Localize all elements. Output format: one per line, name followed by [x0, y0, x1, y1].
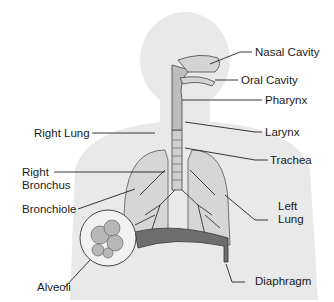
- label-nasal-cavity: Nasal Cavity: [255, 46, 320, 59]
- label-right-bronchus-line2: Bronchus: [22, 179, 71, 192]
- label-larynx: Larynx: [265, 126, 300, 139]
- label-diaphragm: Diaphragm: [255, 275, 311, 288]
- label-alveoli: Alveoli: [37, 281, 71, 294]
- label-oral-cavity: Oral Cavity: [241, 74, 298, 87]
- label-bronchiole: Bronchiole: [22, 203, 76, 216]
- label-right-bronchus-line1: Right: [22, 166, 49, 179]
- label-pharynx: Pharynx: [265, 94, 307, 107]
- label-right-lung: Right Lung: [34, 127, 90, 140]
- label-trachea: Trachea: [270, 154, 312, 167]
- respiratory-diagram: Nasal Cavity Oral Cavity Pharynx Larynx …: [0, 0, 334, 302]
- trachea-shape: [172, 130, 182, 190]
- label-left-lung-line2: Lung: [278, 213, 304, 226]
- label-left-lung-line1: Left: [278, 200, 297, 213]
